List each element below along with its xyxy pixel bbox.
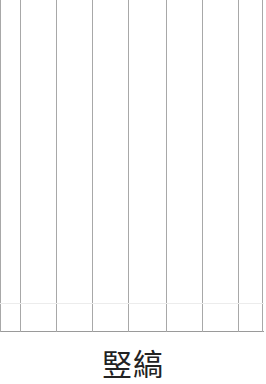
stripe-line: [56, 0, 57, 332]
stripe-pattern: [0, 0, 264, 332]
faint-guide-line: [0, 303, 264, 304]
stripe-line: [238, 0, 239, 332]
stripe-line: [166, 0, 167, 332]
stripe-line: [0, 0, 1, 332]
stripe-line: [262, 0, 263, 332]
stripe-line: [128, 0, 129, 332]
pattern-caption: 竪縞: [0, 346, 266, 384]
stripe-line: [20, 0, 21, 332]
stripe-line: [92, 0, 93, 332]
stripe-line: [202, 0, 203, 332]
